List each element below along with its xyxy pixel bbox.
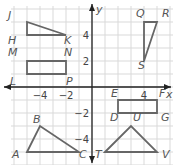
rectangle-LMNP <box>27 61 66 74</box>
vertex-label-T: T <box>95 148 103 161</box>
x-axis-label: x <box>165 88 173 101</box>
vertex-label-P: P <box>66 75 73 88</box>
x-tick-label: −4 <box>33 90 48 101</box>
vertex-label-G: G <box>161 111 170 124</box>
vertex-label-F: F <box>159 87 166 100</box>
y-tick-label: −2 <box>74 108 89 119</box>
vertex-label-R: R <box>162 7 170 20</box>
vertex-label-M: M <box>8 46 18 59</box>
vertex-label-N: N <box>64 46 72 59</box>
y-axis-label: y <box>95 3 103 16</box>
vertex-label-C: C <box>79 148 87 161</box>
y-tick-label: 4 <box>83 30 89 41</box>
y-tick-label: −4 <box>74 134 89 145</box>
vertex-label-J: J <box>6 9 11 22</box>
vertex-label-U: U <box>133 111 141 124</box>
vertex-label-A: A <box>11 148 20 161</box>
x-tick-label: −2 <box>59 90 74 101</box>
vertex-label-Q: Q <box>136 7 145 20</box>
vertex-label-S: S <box>138 59 145 72</box>
vertex-label-D: D <box>110 111 118 124</box>
vertex-label-L: L <box>10 75 16 88</box>
vertex-label-E: E <box>111 87 118 100</box>
y-tick-label: 2 <box>83 56 89 67</box>
triangle-QRS <box>144 22 157 61</box>
y-axis-arrow-up-icon <box>89 4 95 11</box>
triangle-JHK <box>27 22 66 35</box>
coordinate-plane: xy −4−2442−2−4 JHKMNLPQRSEFDUGABCTV <box>0 0 175 165</box>
vertex-label-B: B <box>33 113 41 126</box>
